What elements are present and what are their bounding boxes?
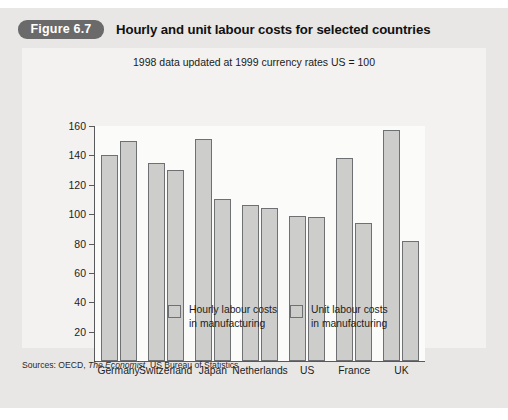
figure-title: Hourly and unit labour costs for selecte… xyxy=(116,20,430,39)
x-axis-label-netherlands: Netherlands xyxy=(232,365,288,376)
figure-container: Figure 6.7 Hourly and unit labour costs … xyxy=(0,8,508,408)
x-axis-label-us: US xyxy=(300,365,314,376)
legend-label-2: Unit labour costsin manufacturing xyxy=(311,303,388,330)
legend-label-line2: in manufacturing xyxy=(189,317,277,331)
legend-label-line2: in manufacturing xyxy=(311,317,388,331)
y-tick-label: 100 xyxy=(68,208,86,220)
x-axis-label-france: France xyxy=(338,365,370,376)
y-tick xyxy=(89,155,95,156)
source-italic: The Economist xyxy=(88,360,145,370)
chart-panel: 1998 data updated at 1999 currency rates… xyxy=(22,48,486,348)
legend-label-line1: Hourly labour costs xyxy=(189,303,277,317)
bar-uk-series-2 xyxy=(402,241,419,361)
legend-swatch-2 xyxy=(290,305,303,318)
x-axis-label-uk: UK xyxy=(394,365,408,376)
y-tick xyxy=(89,185,95,186)
source-suffix: , US Bureau of Statistics xyxy=(145,360,238,370)
y-tick-label: 140 xyxy=(68,149,86,161)
source-note: Sources: OECD, The Economist, US Bureau … xyxy=(22,360,238,370)
figure-header: Figure 6.7 Hourly and unit labour costs … xyxy=(0,16,508,46)
legend-label-1: Hourly labour costsin manufacturing xyxy=(189,303,277,330)
legend-swatch-1 xyxy=(168,305,181,318)
y-tick xyxy=(89,214,95,215)
y-tick-label: 160 xyxy=(68,120,86,132)
bar-france-series-2 xyxy=(355,223,372,361)
chart-legend: Hourly labour costsin manufacturingUnit … xyxy=(22,304,486,340)
y-tick-label: 120 xyxy=(68,179,86,191)
legend-label-line1: Unit labour costs xyxy=(311,303,388,317)
y-tick-label: 60 xyxy=(74,267,86,279)
y-tick xyxy=(89,273,95,274)
chart-subtitle: 1998 data updated at 1999 currency rates… xyxy=(22,56,486,68)
source-prefix: Sources: OECD, xyxy=(22,360,86,370)
y-tick xyxy=(89,244,95,245)
y-tick-label: 80 xyxy=(74,238,86,250)
y-tick xyxy=(89,126,95,127)
figure-number-badge: Figure 6.7 xyxy=(18,20,104,39)
